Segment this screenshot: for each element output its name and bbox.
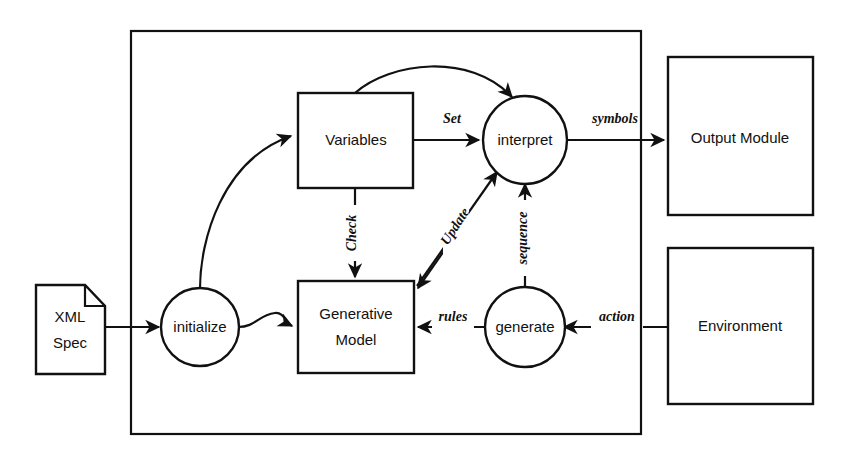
node-xml-spec: XML Spec	[36, 285, 105, 374]
node-generative-model: Generative Model	[298, 281, 414, 373]
edge-initialize-to-generative-model	[238, 313, 292, 327]
node-generate: generate	[485, 287, 565, 367]
node-initialize: initialize	[161, 288, 239, 366]
flow-diagram-svg: XML Spec initialize Variables Generative…	[0, 0, 841, 458]
diagram-canvas: XML Spec initialize Variables Generative…	[0, 0, 841, 458]
initialize-label: initialize	[173, 318, 226, 335]
generative-model-label-line1: Generative	[319, 305, 392, 322]
edge-label-check: Check	[344, 215, 359, 252]
node-environment: Environment	[668, 248, 813, 404]
interpret-label: interpret	[497, 131, 553, 148]
environment-label: Environment	[698, 317, 783, 334]
generate-label: generate	[495, 318, 554, 335]
generative-model-label-line2: Model	[336, 331, 377, 348]
variables-label: Variables	[325, 131, 386, 148]
output-module-label: Output Module	[691, 129, 789, 146]
xml-spec-document-shape	[36, 285, 105, 374]
edge-label-rules: rules	[439, 309, 468, 324]
node-output-module: Output Module	[668, 57, 813, 215]
xml-spec-label-line2: Spec	[53, 334, 88, 351]
edge-initialize-to-variables	[200, 136, 291, 289]
edge-label-action: action	[599, 309, 635, 324]
generative-model-box-shape	[298, 281, 414, 373]
edge-label-sequence: sequence	[515, 212, 530, 266]
node-variables: Variables	[298, 93, 413, 188]
edge-label-set: Set	[443, 111, 462, 126]
edge-label-symbols: symbols	[591, 111, 638, 126]
xml-spec-label-line1: XML	[55, 308, 86, 325]
node-interpret: interpret	[483, 96, 567, 184]
